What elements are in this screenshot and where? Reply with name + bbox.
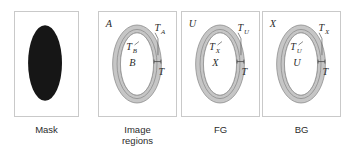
panel-bg: X T X T U U T bbox=[262, 11, 341, 117]
label-region-x: X bbox=[269, 18, 277, 29]
caption-bg: BG bbox=[262, 124, 341, 135]
label-band-tu-sub: U bbox=[244, 28, 250, 35]
mask-ellipse bbox=[28, 25, 62, 101]
panel-fg: U T U T X X T bbox=[181, 11, 260, 117]
label-region-u: U bbox=[189, 18, 197, 29]
bg-illustration: X T X T U U T bbox=[263, 12, 340, 116]
label-band-tx-sub: X bbox=[215, 47, 221, 54]
fg-illustration: U T U T X X T bbox=[182, 12, 259, 116]
image-regions-illustration: A T A T B B T bbox=[99, 12, 176, 116]
label-band-t: T bbox=[158, 66, 165, 77]
label-region-a: A bbox=[105, 18, 113, 29]
figure-root: Mask A T A T B B T Image regions bbox=[0, 0, 351, 159]
label-band-ta-sub: A bbox=[160, 28, 166, 35]
label-region-x: X bbox=[211, 57, 219, 68]
mask-illustration bbox=[15, 12, 78, 116]
label-band-tx-sub: X bbox=[324, 28, 330, 35]
label-region-b: B bbox=[129, 57, 136, 68]
label-region-u: U bbox=[293, 57, 301, 68]
label-band-t: T bbox=[241, 66, 248, 77]
caption-fg: FG bbox=[181, 124, 260, 135]
caption-mask: Mask bbox=[14, 124, 79, 135]
panel-image-regions: A T A T B B T bbox=[98, 11, 177, 117]
panel-mask bbox=[14, 11, 79, 117]
caption-image-regions: Image regions bbox=[98, 124, 177, 146]
label-band-t: T bbox=[322, 66, 329, 77]
